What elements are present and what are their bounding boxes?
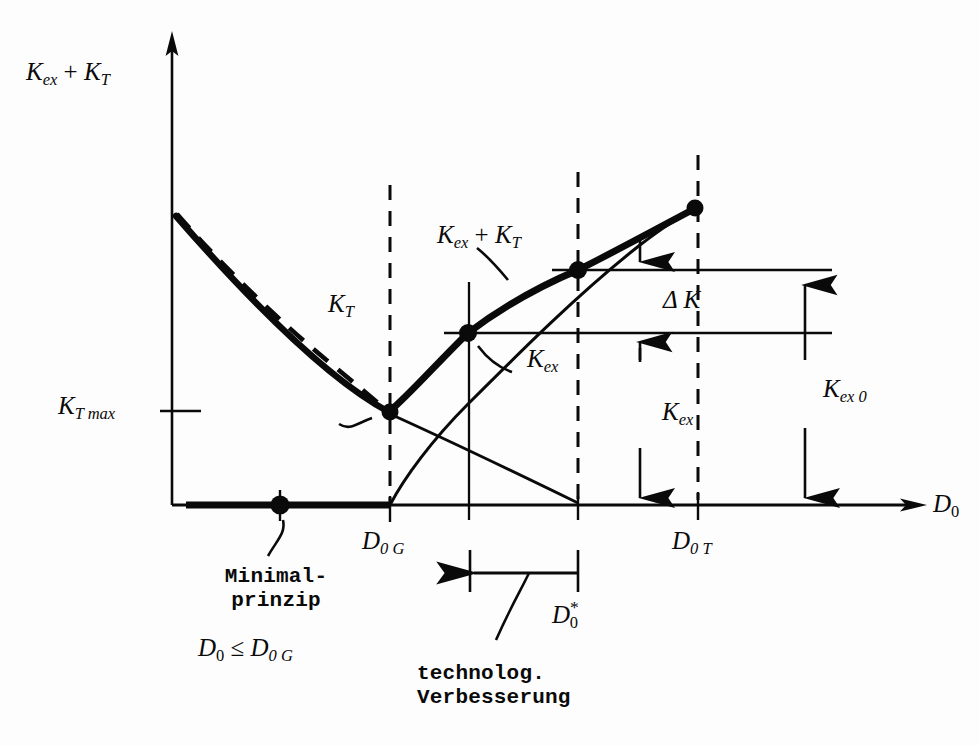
leader-minimal: [268, 520, 284, 556]
curve-label-kt: KT: [328, 290, 354, 321]
point-endpoint-D0T: [687, 200, 704, 217]
leader-kex: [478, 346, 512, 372]
x-tick-label-D0T: D0 T: [672, 527, 712, 558]
x-tick-label-D0star: D*0: [552, 598, 578, 632]
minimal-prinzip-line1: Minimal-: [186, 565, 366, 589]
dimension-label-k-ex: Kex: [662, 398, 693, 429]
curve-kt: [177, 214, 578, 503]
leader-tech: [496, 573, 529, 640]
x-tick-label-D0G: D0 G: [362, 527, 404, 558]
tech-improvement-line2: Verbesserung: [417, 686, 571, 710]
point-minimum-D0G: [382, 404, 399, 421]
axis-lines: [160, 31, 927, 512]
annotation-tech-improvement: technolog. Verbesserung: [417, 662, 571, 709]
annotation-minimal-condition: D0 ≤ D0 G: [198, 634, 293, 665]
annotation-minimal-prinzip: Minimal- prinzip: [186, 565, 366, 612]
tech-improvement-line1: technolog.: [417, 662, 571, 686]
x-axis-ticks: [390, 492, 698, 522]
minimal-principle-segment: [186, 490, 389, 521]
minimal-prinzip-line2: prinzip: [186, 589, 366, 613]
leader-kt: [339, 418, 372, 427]
y-tick-label-ktmax: KT max: [58, 392, 115, 423]
curve-label-kex: Kex: [527, 345, 558, 376]
point-operating-D0star: [569, 261, 587, 279]
x-axis-label: D0: [933, 490, 959, 521]
curve-kt-solid-tail: [390, 414, 578, 503]
dimension-label-k-ex0: Kex 0: [823, 375, 867, 406]
curve-sum: [176, 209, 694, 412]
dimension-label-delta-k: Δ K: [663, 286, 700, 314]
diagram-graphics: [0, 0, 979, 746]
leader-sum: [477, 248, 508, 280]
point-operating-old: [459, 324, 477, 342]
y-axis-label: Kex + KT: [26, 58, 110, 89]
curve-label-sum: Kex + KT: [437, 221, 521, 252]
diagram-canvas: Kex + KT D0 KT max KT Kex + KT Kex D0 G …: [0, 0, 979, 746]
